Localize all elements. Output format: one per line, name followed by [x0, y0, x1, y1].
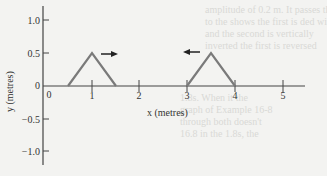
xtick-label: 0: [47, 89, 52, 100]
chart: 1.0 0.5 0 −0.5 −1.0 0 1 2 3 4 5 x (metre…: [0, 0, 327, 176]
x-axis-label: x (metres): [147, 107, 188, 119]
y-axis-label: y (metres): [4, 71, 16, 112]
arrow-left-icon: [183, 49, 200, 55]
ytick-label: 1.0: [28, 15, 41, 26]
ytick-label: 0: [35, 80, 40, 91]
xtick-label: 3: [185, 90, 190, 101]
xtick-label: 2: [137, 90, 142, 101]
xtick-label: 4: [233, 90, 238, 101]
xtick-label: 5: [281, 90, 286, 101]
xtick-label: 1: [90, 90, 95, 101]
arrow-right-icon: [101, 51, 118, 57]
pulse-left-moving: [187, 53, 235, 86]
ytick-label: −0.5: [22, 114, 40, 125]
ytick-label: −1.0: [22, 146, 40, 157]
ytick-label: 0.5: [28, 48, 41, 59]
